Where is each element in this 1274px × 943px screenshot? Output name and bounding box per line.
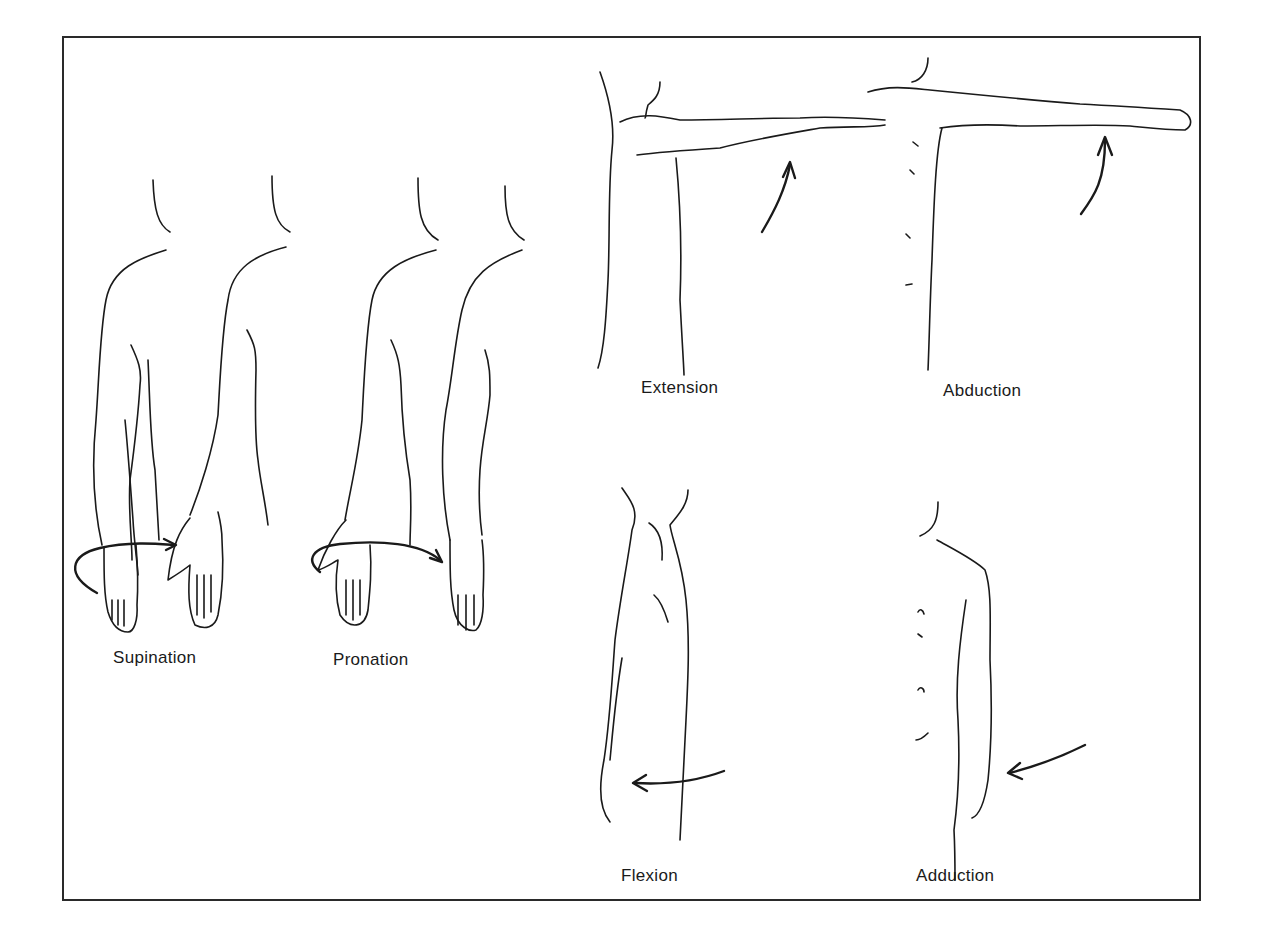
- pronation-figure-right: [443, 186, 524, 630]
- pronation-figure-left: [318, 178, 438, 625]
- label-adduction: Adduction: [916, 866, 994, 886]
- adduction-arrow-icon: [1010, 745, 1085, 773]
- adduction-figure: [916, 502, 991, 880]
- supination-figure-left: [94, 180, 170, 632]
- abduction-arrow-icon: [1081, 140, 1105, 214]
- flexion-figure: [601, 488, 689, 840]
- extension-figure: [598, 72, 885, 375]
- label-abduction: Abduction: [943, 381, 1021, 401]
- flexion-arrow-icon: [635, 771, 724, 783]
- supination-figure-right: [168, 176, 290, 628]
- label-flexion: Flexion: [621, 866, 678, 886]
- label-extension: Extension: [641, 378, 718, 398]
- abduction-figure: [868, 58, 1191, 370]
- supination-arrow-icon: [75, 544, 175, 594]
- pronation-arrow-icon: [312, 542, 440, 572]
- extension-arrow-icon: [762, 165, 790, 232]
- label-supination: Supination: [113, 648, 196, 668]
- label-pronation: Pronation: [333, 650, 408, 670]
- arm-movements-illustration: [0, 0, 1274, 943]
